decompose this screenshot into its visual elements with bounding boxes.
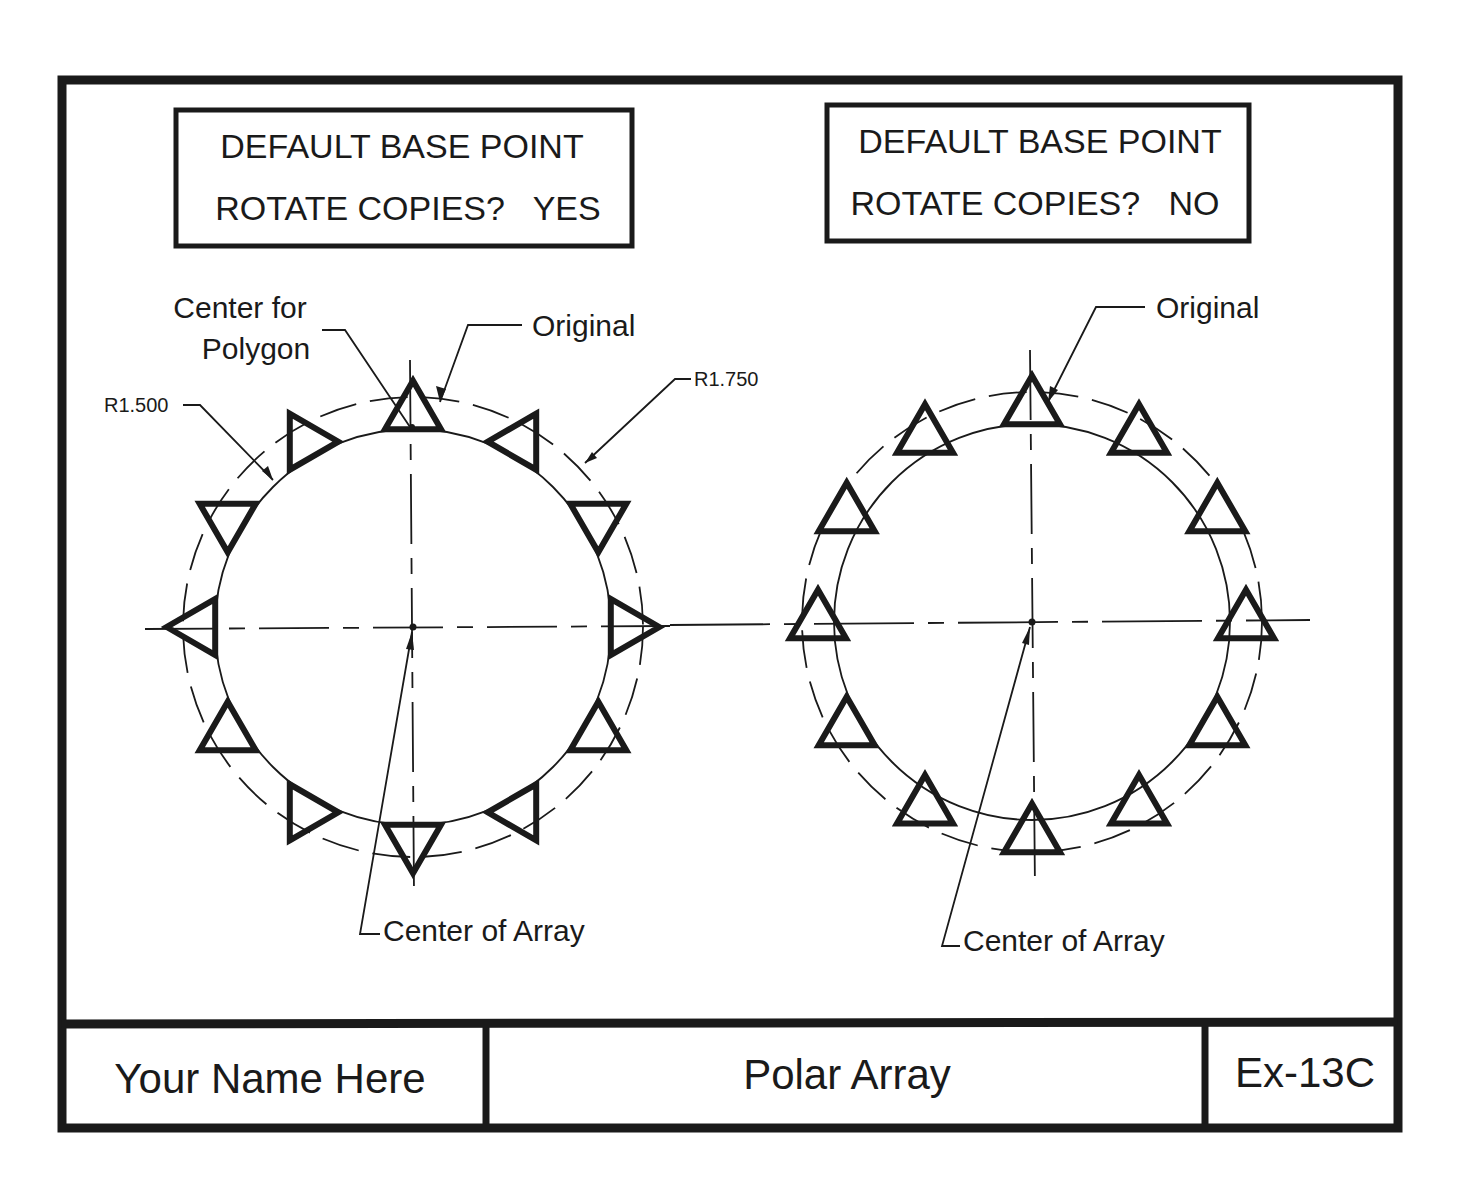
label-center-of-array-right: Center of Array: [963, 924, 1165, 957]
right-triangle-8: [819, 697, 875, 746]
label-original-right: Original: [1156, 291, 1259, 324]
left-triangle-4: [570, 702, 626, 751]
leader-center-of-array-right: [942, 627, 1030, 946]
leader-center-of-array-left: [360, 632, 412, 934]
right-box-line2: ROTATE COPIES? NO: [850, 184, 1219, 222]
label-center-for: Center for: [173, 291, 306, 324]
leader-r1500: [183, 405, 273, 480]
right-triangle-1: [1111, 404, 1167, 453]
leader-r1750: [585, 379, 691, 463]
left-triangle-0: [385, 381, 441, 430]
right-triangle-10: [819, 483, 875, 532]
right-triangle-3: [1218, 590, 1274, 639]
left-triangle-7: [290, 784, 339, 840]
leader-original-right: [1048, 307, 1145, 402]
right-horizontal-centerline: [670, 620, 1310, 625]
label-center-of-array-left: Center of Array: [383, 914, 585, 947]
left-triangle-8: [200, 702, 256, 751]
horizontal-centerline: [145, 626, 670, 629]
sheet-border: [62, 80, 1398, 1128]
right-triangle-4: [1189, 697, 1245, 746]
drawing-title: Polar Array: [743, 1051, 951, 1098]
label-original-left: Original: [532, 309, 635, 342]
left-box-line1: DEFAULT BASE POINT: [220, 127, 583, 165]
left-settings-box: DEFAULT BASE POINT ROTATE COPIES? YES: [176, 110, 632, 246]
label-polygon: Polygon: [202, 332, 310, 365]
title-block: Your Name Here Polar Array Ex-13C: [62, 1022, 1398, 1128]
right-polar-array: [670, 350, 1310, 890]
left-triangle-5: [488, 784, 537, 840]
right-annotations: Original Center of Array: [942, 291, 1259, 957]
label-r1750: R1.750: [694, 368, 759, 390]
left-triangle-1: [488, 414, 537, 470]
student-name: Your Name Here: [114, 1055, 425, 1102]
right-box-line1: DEFAULT BASE POINT: [858, 122, 1221, 160]
left-triangle-10: [200, 504, 256, 553]
leader-original-left: [440, 325, 522, 402]
left-annotations: Center for Polygon Original R1.500 R1.75…: [104, 291, 759, 947]
right-triangle-2: [1189, 483, 1245, 532]
left-triangle-9: [167, 599, 216, 655]
left-triangle-2: [570, 504, 626, 553]
left-polar-array: [145, 360, 670, 893]
left-triangle-11: [290, 414, 339, 470]
label-r1500: R1.500: [104, 394, 169, 416]
array-center-point: [410, 624, 417, 631]
exercise-number: Ex-13C: [1235, 1049, 1375, 1096]
right-array-center-point: [1029, 619, 1036, 626]
right-triangle-9: [790, 590, 846, 639]
right-triangle-11: [897, 404, 953, 453]
right-triangle-0: [1004, 376, 1060, 425]
left-box-line2: ROTATE COPIES? YES: [215, 189, 600, 227]
drawing-sheet: Your Name Here Polar Array Ex-13C DEFAUL…: [0, 0, 1477, 1183]
right-triangle-6: [1004, 804, 1060, 853]
right-settings-box: DEFAULT BASE POINT ROTATE COPIES? NO: [827, 105, 1249, 241]
